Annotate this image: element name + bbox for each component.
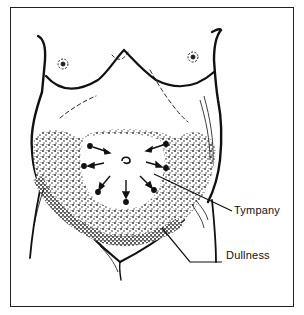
tympany-label: Tympany — [234, 204, 280, 216]
dullness-label: Dullness — [226, 249, 270, 261]
abdomen-illustration — [0, 0, 304, 315]
nipple-left — [58, 59, 68, 69]
nipple-right — [188, 52, 198, 62]
